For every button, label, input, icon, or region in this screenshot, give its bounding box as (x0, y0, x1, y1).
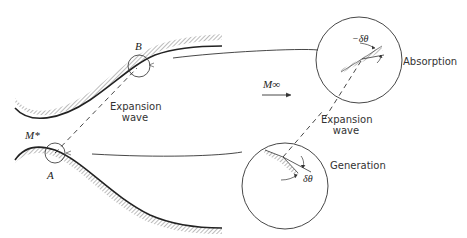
nozzle-diagram (0, 0, 467, 238)
left-expansion-wave-label: Expansion wave (110, 101, 160, 123)
point-a-label: A (47, 170, 54, 181)
lower-wall (15, 147, 222, 228)
generation-label: Generation (330, 160, 386, 171)
leader-line-generation (92, 152, 242, 156)
lower-wall-hatch (15, 147, 222, 234)
absorption-label: Absorption (403, 56, 457, 67)
point-b-label: B (135, 41, 142, 52)
delta-theta-label: δθ (303, 173, 313, 184)
throat-mach-label: M* (25, 130, 40, 141)
right-expansion-wave-label: Expansion wave (321, 114, 371, 136)
neg-delta-theta-label: −δθ (352, 33, 368, 44)
generation-detail-circle (242, 143, 328, 229)
leader-line-absorption (173, 49, 318, 58)
freestream-mach-label: M∞ (263, 79, 280, 90)
